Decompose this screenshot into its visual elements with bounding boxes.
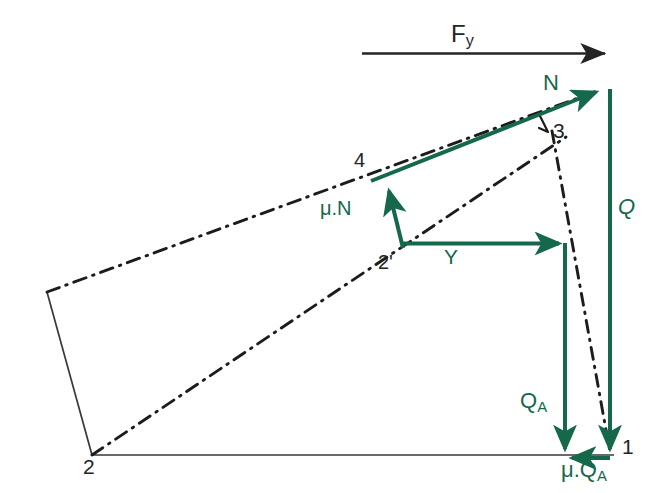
label-mu-qa-subscript: A [597, 467, 607, 484]
label-qa: QA [520, 390, 547, 415]
label-point-4: 4 [354, 150, 365, 170]
label-point-1: 1 [622, 436, 634, 457]
label-mu-n: μ.N [320, 198, 352, 218]
label-q: Q [618, 196, 635, 218]
label-qa-main: Q [520, 388, 537, 413]
force-vectors-green [371, 89, 610, 458]
force-polygon-svg [0, 0, 671, 493]
label-point-2-prime: 2' [378, 252, 393, 272]
frame-left-edge [47, 292, 92, 455]
label-qa-subscript: A [537, 398, 547, 415]
label-y-text: Y [444, 245, 458, 268]
construction-line-3-to-1 [552, 131, 610, 452]
vector-mu-n [389, 191, 403, 248]
label-fy-main: F [451, 20, 466, 47]
label-point-3: 3 [553, 120, 565, 141]
frame-lines [47, 292, 614, 455]
label-mu-qa: μ.QA [561, 459, 607, 484]
label-mu-qa-main: μ.Q [561, 457, 597, 482]
label-point-2: 2 [83, 456, 95, 477]
diagram-canvas: Fy N 3 4 μ.N Q 2' Y QA μ.QA 1 2 [0, 0, 671, 493]
construction-line-upper [47, 90, 600, 292]
label-fy: Fy [451, 22, 474, 48]
label-fy-subscript: y [466, 31, 474, 49]
label-y: Y [444, 246, 458, 267]
construction-line-lower [92, 137, 566, 455]
angle-tick-3 [539, 116, 548, 132]
label-n: N [543, 72, 559, 94]
